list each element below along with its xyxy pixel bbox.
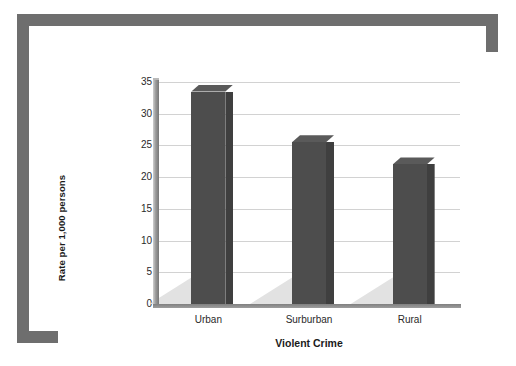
bar-front-face	[292, 142, 326, 304]
y-axis-tick-label: 10	[122, 236, 152, 246]
y-axis-tick-label: 0	[122, 299, 152, 309]
bar[interactable]	[292, 135, 334, 304]
bar-front-face	[191, 92, 225, 304]
y-axis-post	[153, 80, 159, 306]
bar-chart: Rate per 1,000 persons 05101520253035 Ur…	[58, 52, 515, 357]
bar-top-face	[292, 135, 334, 142]
plot-area	[158, 82, 460, 304]
screenshot-root: Rate per 1,000 persons 05101520253035 Ur…	[0, 0, 516, 366]
y-axis-tick-label: 35	[122, 77, 152, 87]
y-axis-tick-label: 15	[122, 204, 152, 214]
y-axis-tick-labels: 05101520253035	[120, 82, 152, 304]
bar-top-face	[191, 85, 233, 92]
bar-front-face	[393, 164, 427, 304]
x-axis-tick-label: Urban	[162, 314, 254, 325]
bar[interactable]	[393, 157, 435, 304]
x-axis-tick-labels: UrbanSurburbanRural	[158, 314, 460, 328]
bar[interactable]	[191, 85, 233, 304]
bar-top-face	[393, 157, 435, 164]
x-axis-title: Violent Crime	[158, 337, 460, 349]
x-axis-tick-label: Rural	[364, 314, 456, 325]
gridline	[158, 82, 460, 83]
y-axis-title: Rate per 1,000 persons	[56, 148, 70, 308]
bar-side-face	[427, 164, 435, 304]
y-axis-tick-label: 5	[122, 267, 152, 277]
bar-side-face	[225, 92, 233, 304]
bar-side-face	[326, 142, 334, 304]
y-axis-tick-label: 30	[122, 109, 152, 119]
x-axis-baseline	[153, 304, 461, 308]
y-axis-tick-label: 25	[122, 140, 152, 150]
x-axis-tick-label: Surburban	[263, 314, 355, 325]
chart-picture-frame: Rate per 1,000 persons 05101520253035 Ur…	[17, 14, 498, 343]
y-axis-tick-label: 20	[122, 172, 152, 182]
